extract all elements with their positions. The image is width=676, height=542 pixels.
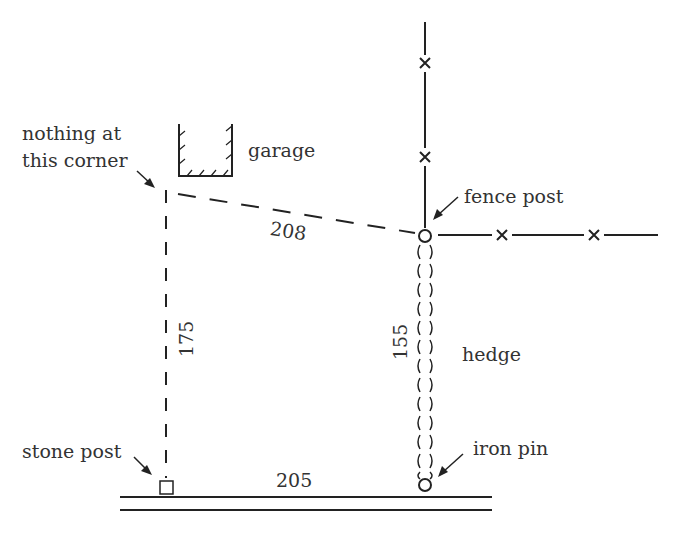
fence-cross-icon <box>589 230 599 240</box>
stone-post-marker <box>160 481 173 494</box>
right-measurement: 155 <box>389 324 411 360</box>
iron-pin-arrow-icon <box>443 454 463 472</box>
garage-label: garage <box>248 139 315 161</box>
fence-cross-icon <box>420 58 430 68</box>
corner-label-line2: this corner <box>22 149 128 171</box>
iron-pin-label: iron pin <box>473 437 548 459</box>
fence-post-arrow-icon <box>438 197 458 215</box>
vertical-fence <box>420 22 430 228</box>
left-measurement: 175 <box>175 321 197 357</box>
corner-label-line1: nothing at <box>22 122 121 144</box>
iron-pin-marker <box>419 479 431 491</box>
bottom-measurement: 205 <box>276 469 312 491</box>
top-measurement: 208 <box>269 217 308 244</box>
survey-diagram: nothing at this corner garage fence post… <box>0 0 676 542</box>
hedge-label: hedge <box>462 343 521 365</box>
horizontal-fence <box>438 230 658 240</box>
fence-post-marker <box>419 230 431 242</box>
garage-icon <box>179 124 232 176</box>
fence-cross-icon <box>497 230 507 240</box>
fence-post-label: fence post <box>464 185 564 207</box>
stone-post-label: stone post <box>22 440 122 462</box>
fence-cross-icon <box>420 152 430 162</box>
hedge <box>418 245 432 479</box>
